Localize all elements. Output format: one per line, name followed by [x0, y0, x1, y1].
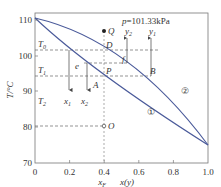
curve-1-label: ①	[147, 107, 155, 117]
x-tick-0.4: 0.4	[99, 167, 111, 177]
y-tick-80: 80	[23, 122, 33, 132]
label-b: B	[150, 66, 156, 76]
label-f: f	[122, 54, 126, 64]
point-q	[102, 29, 106, 33]
x-tick-0.8: 0.8	[168, 167, 180, 177]
y-tick-70: 70	[23, 158, 33, 168]
point-o	[102, 124, 106, 128]
label-y1: y1	[148, 26, 156, 37]
y-tick-110: 110	[19, 15, 33, 25]
pressure-label: p=101.33kPa	[121, 16, 170, 26]
x-tick-0.2: 0.2	[64, 167, 75, 177]
t0-label: T0	[38, 39, 46, 50]
label-e: e	[75, 61, 79, 71]
label-x2: x2	[80, 96, 88, 107]
y-tick-90: 90	[23, 86, 33, 96]
label-a: A	[92, 80, 99, 90]
y-tick-100: 100	[19, 51, 33, 61]
t1-label: T1	[38, 65, 46, 76]
curve-2-label: ②	[181, 86, 189, 96]
label-p: P	[105, 66, 112, 76]
txy-phase-diagram: 110 100 90 80 70 0 0.2 0.4 0.6 0.8 1.0 T…	[0, 0, 221, 187]
label-o: O	[108, 121, 115, 131]
label-x1: x1	[63, 96, 71, 107]
xf-label: xF	[97, 177, 106, 187]
label-y2: y2	[124, 26, 132, 37]
label-q: Q	[108, 26, 115, 36]
y-axis-label: T/°C	[5, 80, 15, 98]
x-tick-0: 0	[33, 167, 38, 177]
t2-label: T2	[38, 96, 46, 107]
x-axis-label: x(y)	[119, 177, 134, 187]
label-d: D	[105, 40, 113, 50]
x-tick-0.6: 0.6	[133, 167, 145, 177]
x-tick-1.0: 1.0	[202, 167, 214, 177]
